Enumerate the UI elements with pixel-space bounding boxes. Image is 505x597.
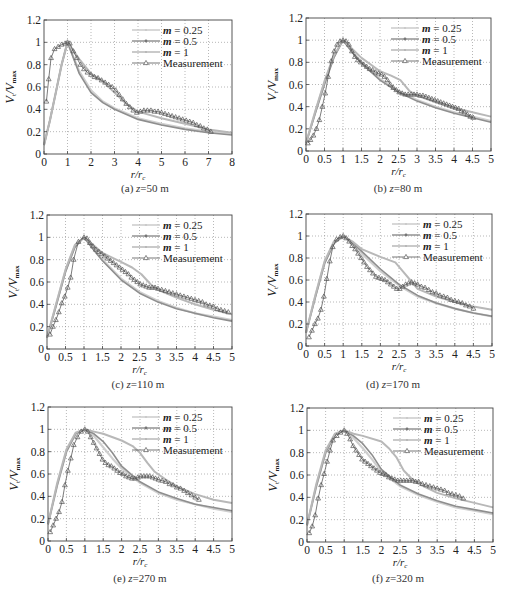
svg-text:6: 6	[182, 156, 188, 168]
svg-text:1.5: 1.5	[355, 348, 370, 360]
chart-panel-e: 00.511.522.533.544.5500.20.40.60.811.2r/…	[0, 400, 250, 597]
chart-b: 00.511.522.533.544.5500.20.40.60.811.2r/…	[250, 0, 505, 180]
svg-text:4.5: 4.5	[466, 348, 481, 360]
series-measurement	[307, 233, 476, 338]
svg-text:1.5: 1.5	[356, 544, 371, 556]
svg-text:0.8: 0.8	[289, 252, 304, 264]
svg-text:0.6: 0.6	[289, 79, 304, 91]
legend-item: Measurement	[391, 55, 482, 67]
svg-text:1: 1	[297, 34, 303, 46]
svg-text:1: 1	[35, 36, 41, 48]
svg-text:0: 0	[297, 340, 303, 352]
caption-b-value: =80 m	[394, 182, 423, 194]
svg-text:1.2: 1.2	[27, 14, 42, 26]
svg-text:5: 5	[229, 543, 235, 555]
svg-text:1: 1	[38, 231, 44, 243]
y-axis-label: Vt/Vmax	[265, 263, 280, 296]
svg-text:3.5: 3.5	[428, 153, 443, 165]
svg-text:2.5: 2.5	[132, 351, 147, 363]
svg-text:4.5: 4.5	[206, 543, 221, 555]
svg-text:0.4: 0.4	[289, 296, 304, 308]
svg-text:1.5: 1.5	[354, 153, 369, 165]
svg-text:0.4: 0.4	[31, 490, 46, 502]
chart-panel-b: 00.511.522.533.544.5500.20.40.60.811.2r/…	[250, 0, 505, 200]
y-axis-label: Vt/Vmax	[6, 265, 21, 298]
svg-text:4: 4	[192, 543, 198, 555]
caption-c-prefix: (c)	[112, 378, 124, 390]
svg-text:0.2: 0.2	[289, 123, 304, 135]
svg-text:4: 4	[192, 351, 198, 363]
svg-text:2: 2	[119, 543, 125, 555]
x-axis: 00.511.522.533.544.55	[304, 539, 496, 556]
caption-c: (c) z=110 m	[38, 378, 238, 390]
svg-text:0.8: 0.8	[27, 59, 42, 71]
svg-text:1.2: 1.2	[30, 209, 45, 221]
svg-text:0: 0	[38, 343, 44, 355]
svg-text:Measurement: Measurement	[163, 57, 223, 69]
svg-text:0.2: 0.2	[31, 513, 46, 525]
svg-text:0: 0	[44, 351, 50, 363]
svg-text:0.4: 0.4	[27, 103, 42, 115]
svg-text:4: 4	[452, 348, 458, 360]
y-axis-label: Vt/Vmax	[265, 68, 280, 101]
x-axis-label: r/rc	[132, 363, 148, 377]
caption-f-prefix: (f)	[372, 572, 383, 584]
caption-c-value: =110 m	[131, 378, 165, 390]
x-axis-label: r/rc	[393, 556, 409, 570]
caption-e-prefix: (e)	[113, 572, 125, 584]
svg-text:3.5: 3.5	[170, 543, 185, 555]
legend: m = 0.25m = 0.5m = 1Measurement	[393, 412, 484, 457]
caption-a-prefix: (a)	[121, 182, 133, 194]
svg-text:5: 5	[159, 156, 165, 168]
svg-text:3: 3	[155, 351, 161, 363]
svg-text:1: 1	[340, 348, 346, 360]
chart-a: 01234567800.20.40.60.811.2r/rcVt/Vmaxm =…	[0, 0, 250, 180]
svg-text:1.5: 1.5	[96, 543, 111, 555]
svg-text:5: 5	[490, 544, 496, 556]
grid	[306, 18, 491, 151]
svg-text:0: 0	[45, 543, 51, 555]
svg-text:3: 3	[156, 543, 162, 555]
grid	[307, 408, 493, 542]
x-axis-label: r/rc	[133, 555, 149, 569]
svg-text:3: 3	[112, 156, 118, 168]
x-axis-label: r/rc	[391, 165, 407, 179]
chart-panel-a: 01234567800.20.40.60.811.2r/rcVt/Vmaxm =…	[0, 0, 250, 200]
svg-text:1: 1	[82, 543, 88, 555]
svg-text:0.8: 0.8	[31, 446, 46, 458]
series-measurement	[48, 235, 231, 336]
svg-text:0: 0	[39, 535, 45, 547]
svg-text:1.2: 1.2	[289, 12, 304, 24]
caption-e: (e) z=270 m	[40, 572, 240, 584]
chart-f: 00.511.522.533.544.5500.20.40.60.811.2r/…	[250, 400, 505, 575]
caption-b: (b) z=80 m	[298, 182, 498, 194]
svg-text:0.6: 0.6	[289, 274, 304, 286]
y-axis-label: Vt/Vmax	[7, 457, 22, 490]
x-axis: 00.511.522.533.544.55	[44, 346, 235, 363]
x-axis-label: r/rc	[131, 168, 147, 180]
svg-text:Measurement: Measurement	[424, 445, 484, 457]
svg-text:Measurement: Measurement	[163, 444, 223, 456]
svg-text:0.2: 0.2	[27, 126, 42, 138]
legend: m = 0.25m = 0.5m = 1Measurement	[391, 22, 482, 67]
legend-item: Measurement	[132, 252, 223, 264]
svg-text:1.2: 1.2	[31, 401, 46, 413]
svg-text:2.5: 2.5	[133, 543, 148, 555]
y-axis-label: Vt/Vmax	[3, 70, 18, 103]
svg-text:3: 3	[414, 153, 420, 165]
legend: m = 0.25m = 0.5m = 1Measurement	[132, 411, 223, 456]
svg-text:Measurement: Measurement	[423, 251, 483, 263]
caption-f-value: =320 m	[390, 572, 424, 584]
svg-text:4.5: 4.5	[465, 153, 480, 165]
svg-text:3.5: 3.5	[429, 348, 444, 360]
svg-text:1.5: 1.5	[95, 351, 110, 363]
svg-text:2: 2	[118, 351, 124, 363]
svg-text:8: 8	[229, 156, 235, 168]
caption-f: (f) z=320 m	[298, 572, 498, 584]
svg-text:0.5: 0.5	[58, 351, 73, 363]
caption-d: (d) z=170 m	[293, 378, 493, 390]
svg-text:1: 1	[340, 153, 346, 165]
svg-text:0.8: 0.8	[290, 447, 305, 459]
chart-panel-d: 00.511.522.533.544.5500.20.40.60.811.2r/…	[250, 200, 505, 400]
grid	[306, 214, 492, 346]
